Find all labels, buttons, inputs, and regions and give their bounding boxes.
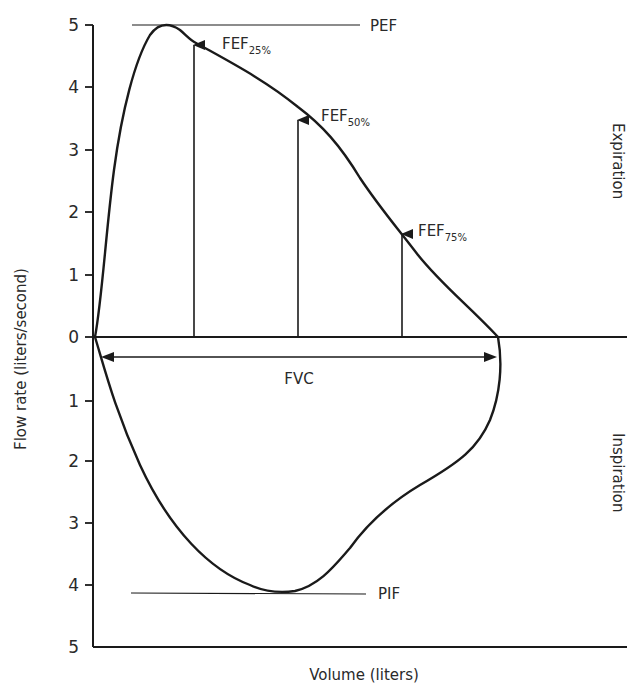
flow-volume-loop-diagram: 5 4 3 2 1 0 1 2 3 4 5 PEF PIF FEF25% FEF… (0, 0, 644, 683)
fef25-label: FEF25% (222, 35, 271, 56)
tick-label-dn4: 4 (68, 575, 79, 595)
tick-label-up1: 1 (68, 265, 79, 285)
fvc-label: FVC (284, 370, 313, 388)
tick-label-dn2: 2 (68, 451, 79, 471)
pif-line (131, 593, 366, 594)
fvc-double-arrow (101, 352, 497, 362)
tick-label-dn3: 3 (68, 513, 79, 533)
tick-label-dn5: 5 (68, 637, 79, 657)
fef75-label: FEF75% (418, 222, 467, 243)
expiration-label: Expiration (609, 123, 627, 199)
tick-label-zero: 0 (68, 327, 79, 347)
tick-label-up4: 4 (68, 77, 79, 97)
fef50-label: FEF50% (321, 107, 370, 128)
expiratory-curve (95, 25, 498, 337)
pef-label: PEF (370, 17, 397, 35)
tick-label-up2: 2 (68, 202, 79, 222)
inspiration-label: Inspiration (609, 433, 627, 513)
y-tick-labels: 5 4 3 2 1 0 1 2 3 4 5 (68, 15, 79, 657)
y-ticks (85, 25, 93, 585)
tick-label-up3: 3 (68, 140, 79, 160)
y-axis-title: Flow rate (liters/second) (12, 268, 30, 450)
x-axis-title: Volume (liters) (309, 666, 419, 683)
pif-label: PIF (378, 585, 400, 603)
tick-label-up5: 5 (68, 15, 79, 35)
tick-label-dn1: 1 (68, 391, 79, 411)
